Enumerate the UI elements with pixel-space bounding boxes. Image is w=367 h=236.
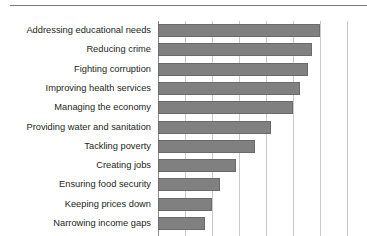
bar-chart-figure: Addressing educational needsReducing cri…: [0, 0, 367, 236]
bar-row: [158, 156, 367, 175]
header-divider: [10, 5, 367, 6]
bar: [158, 198, 212, 211]
bar-row: [158, 40, 367, 59]
bar-row: [158, 79, 367, 98]
bar-row: [158, 175, 367, 194]
category-label: Creating jobs: [0, 156, 155, 175]
bar-row: [158, 60, 367, 79]
category-label: Improving health services: [0, 79, 155, 98]
plot-area: [158, 21, 367, 236]
category-label: Fighting corruption: [0, 60, 155, 79]
bar: [158, 101, 293, 114]
bar: [158, 140, 255, 153]
category-label: Ensuring food security: [0, 175, 155, 194]
bar-row: [158, 195, 367, 214]
bar-series: [158, 21, 367, 236]
category-label: Tackling poverty: [0, 137, 155, 156]
bar-row: [158, 98, 367, 117]
bar-row: [158, 137, 367, 156]
bar: [158, 121, 271, 134]
category-label: Reducing crime: [0, 40, 155, 59]
category-label: Addressing educational needs: [0, 21, 155, 40]
bar: [158, 82, 300, 95]
category-label: Managing the economy: [0, 98, 155, 117]
category-axis-labels: Addressing educational needsReducing cri…: [0, 21, 155, 236]
bar: [158, 43, 312, 56]
bar: [158, 178, 220, 191]
bar: [158, 63, 308, 76]
category-label: Narrowing income gaps: [0, 214, 155, 233]
bar: [158, 159, 236, 172]
category-label: Keeping prices down: [0, 195, 155, 214]
bar-row: [158, 214, 367, 233]
bar-row: [158, 21, 367, 40]
bar-row: [158, 118, 367, 137]
bar: [158, 24, 320, 37]
bar: [158, 217, 205, 230]
category-label: Providing water and sanitation: [0, 118, 155, 137]
